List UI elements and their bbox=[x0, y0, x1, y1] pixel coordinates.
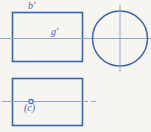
figure-canvas bbox=[0, 0, 151, 132]
front-view-rectangle bbox=[13, 13, 83, 62]
label-c-parenthesized: (c) bbox=[24, 103, 35, 113]
technical-drawing-figure: b' g' (c) bbox=[0, 0, 151, 132]
label-b-prime: b' bbox=[28, 1, 35, 11]
label-g-prime: g' bbox=[51, 27, 58, 37]
